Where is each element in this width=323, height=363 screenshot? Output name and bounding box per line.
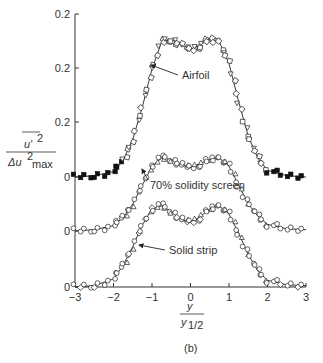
data-point [82, 172, 86, 176]
data-point [168, 39, 173, 44]
data-point [245, 247, 250, 252]
y-tick-label: 0.2 [55, 116, 70, 128]
data-point [71, 226, 76, 231]
annotation-70-solidity-screen-label: 70% solidity screen [150, 179, 245, 191]
x-label-denominator: y [180, 316, 188, 328]
annotation-airfoil-arrow [151, 65, 178, 75]
data-point [113, 169, 117, 173]
data-point [227, 58, 233, 64]
series-line [75, 39, 306, 177]
data-point [138, 223, 143, 228]
data-point [120, 261, 125, 266]
data-point [162, 205, 167, 210]
data-point [131, 128, 137, 134]
y-tick-label: 0 [64, 171, 70, 183]
data-point [211, 207, 216, 212]
data-point [144, 216, 149, 221]
data-point [180, 215, 185, 220]
data-point [233, 91, 239, 97]
x-tick-label: 2 [264, 291, 270, 303]
y-axis-label: u' 2 Δu 2 max [6, 132, 56, 170]
data-point [144, 87, 150, 93]
data-point [95, 225, 100, 230]
data-point [259, 217, 264, 222]
data-point [180, 160, 185, 165]
axes: 0.20.20.2000−3−2−10123 [55, 8, 309, 303]
x-axis-label: y y 1/2 [180, 300, 204, 331]
data-point [239, 106, 245, 112]
y-tick-label: 0.2 [55, 62, 70, 74]
chart: 0.20.20.2000−3−2−10123 Airfoil70% solidi… [0, 0, 323, 363]
data-point [114, 271, 119, 276]
data-point [257, 153, 263, 159]
data-point [257, 212, 262, 217]
data-point [138, 184, 143, 189]
data-point [138, 229, 143, 234]
data-point [124, 154, 130, 160]
data-point [95, 281, 100, 286]
data-point [228, 169, 233, 174]
data-point [105, 278, 110, 283]
data-point [233, 171, 238, 176]
data-point [131, 139, 137, 145]
data-point [150, 164, 155, 169]
annotations: Airfoil70% solidity screenSolid strip [139, 65, 245, 256]
data-point [257, 267, 262, 272]
data-point [235, 232, 240, 237]
data-point [113, 277, 118, 282]
data-point [245, 197, 250, 202]
annotation-solid-strip-label: Solid strip [169, 244, 217, 256]
y-tick-label: 0 [64, 225, 70, 237]
data-point [299, 226, 304, 231]
x-tick-label: −1 [146, 291, 159, 303]
data-point [265, 171, 269, 175]
data-point [114, 220, 119, 225]
panel-label: (b) [184, 342, 197, 354]
x-tick-label: −2 [107, 291, 120, 303]
data-point [216, 203, 221, 208]
data-point [156, 155, 161, 160]
data-point [259, 272, 264, 277]
x-tick-label: 1 [226, 291, 232, 303]
data-point [264, 225, 269, 230]
data-point [81, 226, 86, 231]
data-point [247, 202, 252, 207]
data-point [233, 219, 238, 224]
data-point [150, 208, 155, 213]
annotation-airfoil-label: Airfoil [182, 69, 210, 81]
data-point [252, 263, 257, 268]
data-point [299, 282, 304, 287]
data-point [228, 217, 233, 222]
y-label-denominator: Δu [7, 156, 22, 168]
data-point [216, 155, 221, 160]
data-point [132, 239, 137, 244]
y-label-num-sup: 2 [37, 132, 43, 144]
data-point [299, 174, 303, 178]
annotation-solid-strip-arrow [139, 245, 165, 250]
data-point [95, 172, 99, 176]
x-tick-label: 3 [303, 291, 309, 303]
data-point [252, 209, 257, 214]
data-point [278, 173, 282, 177]
data-point [192, 162, 197, 167]
y-tick-label: 0.2 [55, 8, 70, 20]
data-point [105, 224, 110, 229]
data-point [240, 244, 245, 249]
data-point [162, 155, 167, 160]
data-point [187, 163, 192, 168]
data-point [198, 45, 203, 50]
data-point [156, 202, 161, 207]
data-point [288, 281, 293, 286]
data-point [240, 195, 245, 200]
data-point [275, 168, 279, 172]
data-point [106, 170, 110, 174]
data-point [275, 221, 280, 226]
data-point [143, 94, 148, 99]
data-point [137, 113, 142, 118]
data-point [246, 137, 251, 142]
y-label-den-sub: max [32, 158, 53, 170]
data-point [102, 283, 107, 288]
data-point [138, 188, 143, 193]
data-point [81, 282, 86, 287]
data-point [204, 209, 209, 214]
